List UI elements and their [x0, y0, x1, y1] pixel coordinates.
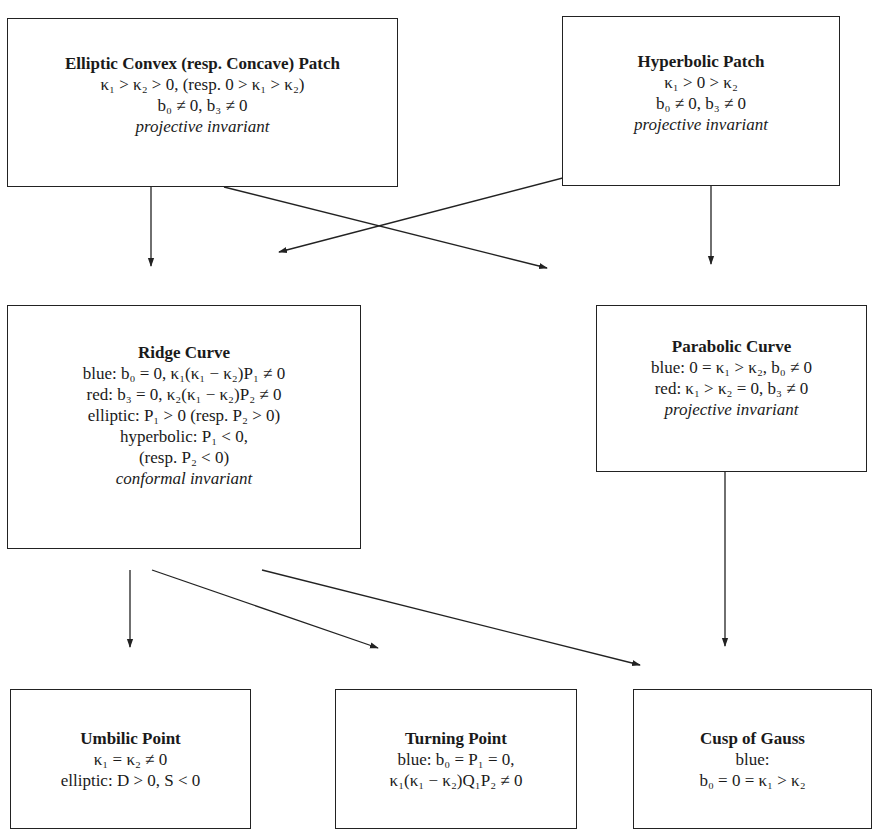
node-title: Hyperbolic Patch — [637, 51, 764, 72]
node-condition: elliptic: P₁ > 0 (resp. P₂ > 0) — [88, 405, 281, 426]
node-title: Cusp of Gauss — [700, 728, 805, 749]
node-hyperbolic-patch: Hyperbolic Patch κ₁ > 0 > κ₂ b₀ ≠ 0, b₃ … — [562, 16, 840, 186]
node-invariance-note: projective invariant — [634, 114, 768, 135]
edge-ridge-to-turning — [152, 570, 378, 648]
node-cusp-of-gauss: Cusp of Gauss blue: b₀ = 0 = κ₁ > κ₂ — [633, 689, 872, 829]
node-condition: κ₁ > κ₂ > 0, (resp. 0 > κ₁ > κ₂) — [101, 74, 305, 95]
node-condition: blue: b₀ = P₁ = 0, — [398, 749, 515, 770]
edge-elliptic-to-parabolic — [224, 187, 547, 268]
node-condition: b₀ ≠ 0, b₃ ≠ 0 — [157, 95, 247, 116]
node-condition: elliptic: D > 0, S < 0 — [61, 770, 201, 791]
node-invariance-note: projective invariant — [136, 116, 270, 137]
node-invariance-note: conformal invariant — [116, 468, 252, 489]
node-umbilic-point: Umbilic Point κ₁ = κ₂ ≠ 0 elliptic: D > … — [10, 689, 251, 829]
node-condition: blue: b₀ = 0, κ₁(κ₁ − κ₂)P₁ ≠ 0 — [83, 363, 285, 384]
node-ridge-curve: Ridge Curve blue: b₀ = 0, κ₁(κ₁ − κ₂)P₁ … — [7, 305, 361, 549]
node-title: Elliptic Convex (resp. Concave) Patch — [65, 53, 340, 74]
node-condition: (resp. P₂ < 0) — [139, 447, 229, 468]
node-invariance-note: projective invariant — [665, 399, 799, 420]
node-condition: κ₁(κ₁ − κ₂)Q₁P₂ ≠ 0 — [390, 770, 523, 791]
node-title: Parabolic Curve — [672, 336, 791, 357]
node-condition: κ₁ > 0 > κ₂ — [664, 72, 738, 93]
node-elliptic-patch: Elliptic Convex (resp. Concave) Patch κ₁… — [7, 18, 398, 187]
node-title: Umbilic Point — [80, 728, 181, 749]
node-parabolic-curve: Parabolic Curve blue: 0 = κ₁ > κ₂, b₀ ≠ … — [596, 305, 867, 472]
node-title: Turning Point — [405, 728, 507, 749]
node-condition: κ₁ = κ₂ ≠ 0 — [94, 749, 167, 770]
node-turning-point: Turning Point blue: b₀ = P₁ = 0, κ₁(κ₁ −… — [335, 689, 577, 829]
node-condition: blue: — [736, 749, 770, 770]
node-title: Ridge Curve — [138, 342, 230, 363]
edge-ridge-to-cusp — [262, 570, 640, 665]
node-condition: b₀ ≠ 0, b₃ ≠ 0 — [656, 93, 746, 114]
node-condition: hyperbolic: P₁ < 0, — [120, 426, 248, 447]
node-condition: blue: 0 = κ₁ > κ₂, b₀ ≠ 0 — [651, 357, 812, 378]
node-condition: b₀ = 0 = κ₁ > κ₂ — [699, 770, 805, 791]
node-condition: red: b₃ = 0, κ₂(κ₁ − κ₂)P₂ ≠ 0 — [87, 384, 282, 405]
node-condition: red: κ₁ > κ₂ = 0, b₃ ≠ 0 — [655, 378, 809, 399]
